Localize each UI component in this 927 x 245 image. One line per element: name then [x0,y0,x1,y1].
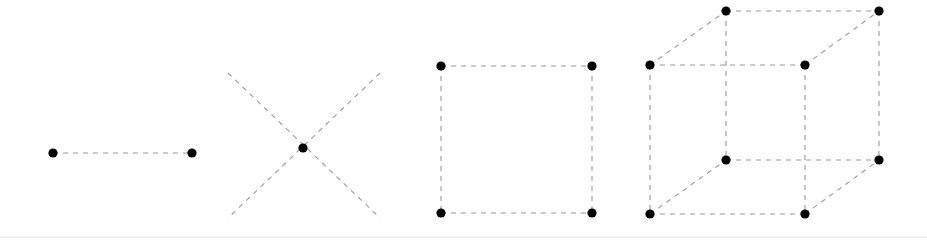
two-dimensional-square-top-right-corner-dot [587,61,596,70]
three-dimensional-cube-back-bottom-left-dot [721,155,730,164]
two-dimensional-square-bottom-right-corner-dot [587,208,596,217]
crossed-diagonals-center-point-dot [298,143,307,152]
one-dimensional-line-left-endpoint-dot [48,148,57,157]
two-dimensional-square-bottom-left-corner-dot [436,208,445,217]
crossed-diagonals-vertices [298,143,307,152]
three-dimensional-cube-front-top-left-dot [645,60,654,69]
three-dimensional-cube-back-top-right-dot [874,6,883,15]
canvas-background [0,0,927,245]
three-dimensional-cube-front-top-right-dot [800,60,809,69]
figure-svg [0,0,927,245]
three-dimensional-cube-front-bottom-right-dot [800,209,809,218]
figure-canvas [0,0,927,245]
one-dimensional-line-right-endpoint-dot [187,148,196,157]
two-dimensional-square-top-left-corner-dot [436,61,445,70]
three-dimensional-cube-back-top-left-dot [721,6,730,15]
three-dimensional-cube-back-bottom-right-dot [874,155,883,164]
three-dimensional-cube-front-bottom-left-dot [645,209,654,218]
